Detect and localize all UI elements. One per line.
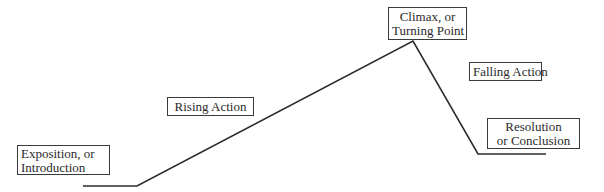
rising-action-label-box: Rising Action bbox=[167, 97, 254, 116]
exposition-label-box: Exposition, or Introduction bbox=[17, 145, 110, 175]
exposition-label-line-1: Exposition, or bbox=[21, 147, 106, 161]
resolution-label-box: Resolution or Conclusion bbox=[487, 118, 580, 149]
exposition-label-line-2: Introduction bbox=[21, 161, 106, 175]
resolution-label-line-1: Resolution bbox=[491, 120, 576, 134]
climax-label-line-1: Climax, or bbox=[392, 10, 463, 24]
resolution-label-line-2: or Conclusion bbox=[491, 134, 576, 148]
falling-action-label-box: Falling Action bbox=[469, 62, 542, 81]
rising-action-label: Rising Action bbox=[171, 100, 250, 114]
climax-label-line-2: Turning Point bbox=[392, 24, 463, 38]
falling-action-label: Falling Action bbox=[473, 65, 538, 79]
climax-label-box: Climax, or Turning Point bbox=[388, 7, 467, 40]
